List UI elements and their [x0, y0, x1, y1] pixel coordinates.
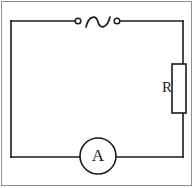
- ammeter-label: A: [80, 147, 116, 164]
- circuit-diagram-figure: R A: [0, 0, 194, 188]
- resistor-label: R: [162, 80, 172, 95]
- resistor-body: [172, 64, 186, 113]
- source-terminal-right-icon: [114, 18, 120, 24]
- ac-source-sine-icon: [86, 17, 110, 27]
- source-terminal-left-icon: [75, 18, 81, 24]
